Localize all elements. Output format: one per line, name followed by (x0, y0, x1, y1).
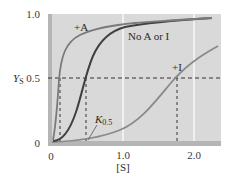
label-no-a-or-i: No A or I (128, 30, 170, 42)
y-axis-bar (48, 14, 52, 146)
x-tick-1: 1.0 (116, 149, 130, 161)
x-axis-title: [S] (116, 161, 129, 173)
x-tick-2: 2.0 (187, 149, 201, 161)
x-tick-0: 0 (48, 150, 54, 162)
y-tick-05: 0.5 (26, 72, 40, 84)
label-plus-a: +A (74, 21, 88, 33)
y-axis-title: YS (13, 72, 24, 86)
y-tick-0: 0 (35, 137, 41, 149)
y-tick-1: 1.0 (26, 8, 40, 20)
x-axis-bar (48, 141, 221, 146)
label-plus-i: +I (172, 61, 182, 73)
allosteric-saturation-chart: +A No A or I +I K0.5 1.0 0.5 0 YS 0 1.0 … (0, 0, 227, 180)
